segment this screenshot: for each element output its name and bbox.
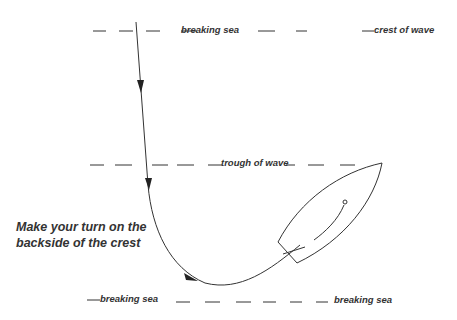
turn-path xyxy=(136,22,300,285)
top-breaking-sea-label: breaking sea xyxy=(181,24,239,35)
arrow-down-icon xyxy=(137,80,144,93)
instruction-line-1: Make your turn on the xyxy=(16,219,147,235)
boat-hull xyxy=(278,163,382,263)
bottom-breaking-sea-right-label: breaking sea xyxy=(334,294,392,305)
instruction-line-2: backside of the crest xyxy=(16,235,147,251)
instruction-text: Make your turn on the backside of the cr… xyxy=(16,219,147,251)
crest-of-wave-label: crest of wave xyxy=(374,24,434,35)
bottom-breaking-sea-left-label: breaking sea xyxy=(100,293,158,304)
trough-of-wave-label: trough of wave xyxy=(221,157,289,168)
arrow-right-icon xyxy=(184,273,198,281)
wave-turn-diagram: breaking sea crest of wave trough of wav… xyxy=(0,0,457,320)
mast-icon xyxy=(343,200,347,204)
arrow-down-icon xyxy=(145,178,152,190)
